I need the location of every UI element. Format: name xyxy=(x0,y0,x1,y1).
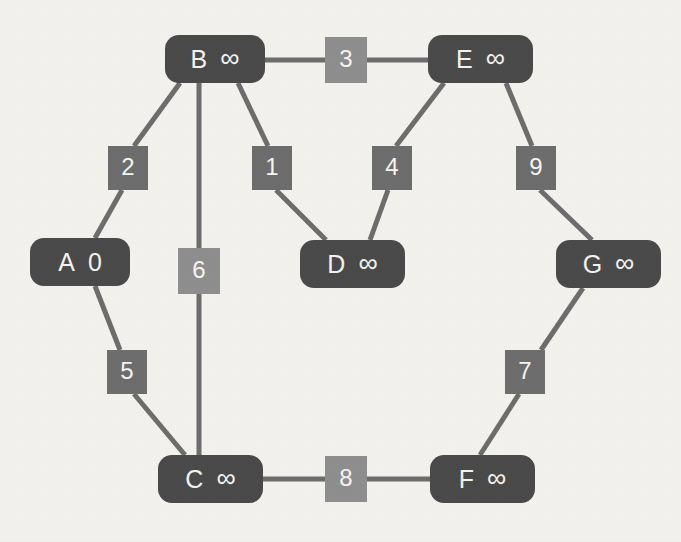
edge-weight-value: 3 xyxy=(339,47,352,71)
edge-line xyxy=(370,190,388,240)
edge-weight-b-e[interactable]: 3 xyxy=(325,37,367,83)
edge-weight-value: 9 xyxy=(529,155,542,179)
node-distance-value: ∞ xyxy=(220,45,239,72)
graph-node-b[interactable]: B∞ xyxy=(165,35,265,83)
graph-node-d[interactable]: D∞ xyxy=(300,240,405,288)
edge-line xyxy=(95,286,120,350)
graph-node-e[interactable]: E∞ xyxy=(428,35,533,83)
edge-line xyxy=(276,190,326,240)
edge-weight-d-e[interactable]: 4 xyxy=(372,146,412,190)
edge-weight-value: 2 xyxy=(121,155,134,179)
edge-weight-a-c[interactable]: 5 xyxy=(107,350,147,394)
node-distance-value: ∞ xyxy=(486,45,505,72)
edge-line xyxy=(541,288,583,350)
node-label: C xyxy=(185,467,203,492)
edge-weight-a-b[interactable]: 2 xyxy=(108,146,148,190)
node-distance-value: ∞ xyxy=(358,250,377,277)
graph-node-g[interactable]: G∞ xyxy=(556,240,661,288)
edge-weight-value: 7 xyxy=(518,359,531,383)
edge-weight-value: 1 xyxy=(265,155,278,179)
edge-weight-e-g[interactable]: 9 xyxy=(516,146,556,190)
edge-line xyxy=(540,190,592,240)
edge-weight-f-g[interactable]: 7 xyxy=(505,350,545,394)
node-distance-value: ∞ xyxy=(216,465,235,492)
node-label: F xyxy=(459,467,474,492)
edge-line xyxy=(238,83,268,146)
node-distance-value: 0 xyxy=(88,250,102,275)
edge-line xyxy=(396,83,444,146)
graph-node-a[interactable]: A0 xyxy=(30,238,130,286)
node-label: G xyxy=(583,252,602,277)
edge-weight-b-d[interactable]: 1 xyxy=(252,146,292,190)
edge-line xyxy=(134,394,185,455)
graph-node-f[interactable]: F∞ xyxy=(430,455,535,503)
edge-line xyxy=(95,190,122,238)
edge-weight-value: 6 xyxy=(192,258,205,282)
node-label: E xyxy=(456,47,473,72)
node-label: B xyxy=(191,47,208,72)
node-label: D xyxy=(327,252,345,277)
edge-line xyxy=(506,83,532,146)
graph-node-c[interactable]: C∞ xyxy=(158,455,263,503)
edge-weight-b-c[interactable]: 6 xyxy=(178,248,220,294)
edge-line xyxy=(480,394,519,455)
node-distance-value: ∞ xyxy=(615,250,634,277)
edge-line xyxy=(134,83,180,146)
node-label: A xyxy=(58,250,75,275)
graph-diagram: A0B∞C∞D∞E∞F∞G∞ 256134987 xyxy=(0,0,681,542)
node-distance-value: ∞ xyxy=(487,465,506,492)
edge-weight-c-f[interactable]: 8 xyxy=(325,456,367,502)
edge-weight-value: 4 xyxy=(385,155,398,179)
edge-weight-value: 8 xyxy=(339,466,352,490)
edge-weight-value: 5 xyxy=(120,359,133,383)
